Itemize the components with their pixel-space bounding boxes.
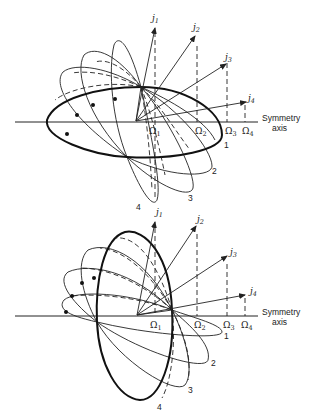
label-j3: j3 [223, 52, 232, 64]
label-j4: j4 [248, 286, 257, 298]
focus-dot-4 [113, 97, 117, 101]
top-panel: j1 j2 j3 j4 Ω1 Ω2 Ω3 Ω4 Symmetry axis 1 … [15, 13, 301, 212]
label-omega1: Ω1 [150, 320, 162, 332]
orbit-label-1: 1 [224, 140, 229, 150]
axis-label-line1: Symmetry [262, 307, 301, 317]
vector-j4 [136, 102, 246, 121]
label-omega2: Ω2 [194, 320, 206, 332]
label-j1: j1 [154, 207, 163, 219]
orbit-label-1: 1 [224, 331, 229, 341]
orbit-1-bold [47, 84, 222, 157]
orbit-label-4: 4 [136, 202, 141, 212]
label-j1: j1 [150, 13, 159, 25]
vector-j3 [137, 256, 227, 315]
orbit-label-3: 3 [188, 193, 193, 203]
label-j4: j4 [246, 93, 255, 105]
orbit-label-4: 4 [157, 402, 162, 412]
label-j2: j2 [191, 22, 200, 34]
axis-label-line2: axis [272, 317, 287, 327]
label-j2: j2 [195, 214, 204, 226]
orbit-label-3: 3 [188, 385, 193, 395]
bottom-panel: j1 j2 j3 j4 Ω1 Ω2 Ω3 Ω4 Symmetry axis 1 … [15, 207, 301, 412]
orbit-diagram: j1 j2 j3 j4 Ω1 Ω2 Ω3 Ω4 Symmetry axis 1 … [0, 0, 316, 419]
focus-dot-3 [80, 281, 84, 285]
orbit-label-2: 2 [212, 166, 217, 176]
label-j3: j3 [228, 247, 237, 259]
focus-dot-1 [64, 310, 68, 314]
axis-label-line2: axis [272, 123, 287, 133]
focus-dot-1 [65, 132, 69, 136]
focus-dot-2 [70, 294, 74, 298]
label-omega4: Ω4 [241, 320, 253, 332]
vector-j4 [137, 295, 245, 315]
focus-dot-3 [91, 103, 95, 107]
focus-dot-2 [75, 113, 79, 117]
orbit-2-dashed [172, 310, 189, 380]
axis-label-line1: Symmetry [262, 113, 301, 123]
label-omega4: Ω4 [242, 126, 254, 138]
orbit-label-2: 2 [211, 358, 216, 368]
focus-dot-4 [92, 276, 96, 280]
label-omega3: Ω3 [225, 126, 237, 138]
